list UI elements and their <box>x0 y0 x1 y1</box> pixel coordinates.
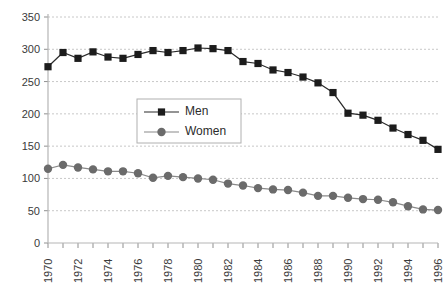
legend-label-men: Men <box>185 104 208 118</box>
data-point-women-1989 <box>329 192 337 200</box>
data-point-women-1993 <box>389 198 397 206</box>
data-point-women-1979 <box>179 173 187 181</box>
data-point-men-1983 <box>239 58 246 65</box>
data-point-women-1983 <box>239 181 247 189</box>
x-tick-label-1986: 1986 <box>282 259 294 283</box>
data-point-men-1976 <box>134 51 141 58</box>
legend-label-women: Women <box>185 124 226 138</box>
data-point-women-1972 <box>74 163 82 171</box>
data-point-men-1977 <box>149 47 156 54</box>
data-point-men-1970 <box>44 63 51 70</box>
data-point-women-1985 <box>269 185 277 193</box>
y-tick-label-350: 350 <box>22 11 40 23</box>
data-point-men-1987 <box>299 73 306 80</box>
x-tick-label-1994: 1994 <box>402 259 414 283</box>
chart-legend: MenWomen <box>137 99 241 143</box>
series-women-group <box>44 161 442 215</box>
legend-marker-men <box>158 108 165 115</box>
series-men-group <box>44 44 441 153</box>
y-tick-label-150: 150 <box>22 140 40 152</box>
x-tick-label-1988: 1988 <box>312 259 324 283</box>
data-point-men-1993 <box>389 124 396 131</box>
data-point-women-1996 <box>434 206 442 214</box>
data-point-men-1995 <box>419 137 426 144</box>
data-point-men-1975 <box>119 55 126 62</box>
data-point-women-1991 <box>359 195 367 203</box>
data-point-women-1992 <box>374 196 382 204</box>
data-point-men-1989 <box>329 89 336 96</box>
x-axis-ticks-group: 1970197219741976197819801982198419861988… <box>42 243 444 283</box>
data-point-women-1977 <box>149 174 157 182</box>
x-tick-label-1996: 1996 <box>432 259 444 283</box>
data-point-women-1984 <box>254 184 262 192</box>
y-tick-label-0: 0 <box>34 237 40 249</box>
x-tick-label-1984: 1984 <box>252 259 264 283</box>
data-point-men-1979 <box>179 47 186 54</box>
data-point-men-1991 <box>359 112 366 119</box>
data-point-women-1990 <box>344 194 352 202</box>
data-point-men-1988 <box>314 79 321 86</box>
data-point-women-1973 <box>89 165 97 173</box>
x-tick-label-1990: 1990 <box>342 259 354 283</box>
data-point-men-1982 <box>224 47 231 54</box>
data-point-women-1994 <box>404 202 412 210</box>
data-point-men-1978 <box>164 49 171 56</box>
x-tick-label-1978: 1978 <box>162 259 174 283</box>
y-tick-label-100: 100 <box>22 172 40 184</box>
data-point-women-1987 <box>299 188 307 196</box>
y-tick-label-300: 300 <box>22 43 40 55</box>
data-point-women-1986 <box>284 186 292 194</box>
data-point-men-1980 <box>194 44 201 51</box>
data-point-men-1971 <box>59 49 66 56</box>
line-chart: 050100150200250300350 197019721974197619… <box>0 0 446 287</box>
data-point-women-1978 <box>164 172 172 180</box>
x-tick-label-1974: 1974 <box>102 259 114 283</box>
data-point-women-1971 <box>59 161 67 169</box>
data-point-women-1981 <box>209 176 217 184</box>
data-point-men-1981 <box>209 45 216 52</box>
data-point-men-1990 <box>344 110 351 117</box>
y-tick-label-250: 250 <box>22 76 40 88</box>
data-point-men-1985 <box>269 66 276 73</box>
data-point-women-1980 <box>194 174 202 182</box>
y-tick-label-200: 200 <box>22 108 40 120</box>
data-point-women-1970 <box>44 165 52 173</box>
data-point-men-1973 <box>89 48 96 55</box>
x-tick-label-1982: 1982 <box>222 259 234 283</box>
data-point-women-1975 <box>119 167 127 175</box>
data-point-men-1994 <box>404 131 411 138</box>
y-axis-ticks-group: 050100150200250300350 <box>22 11 48 249</box>
data-point-women-1988 <box>314 192 322 200</box>
data-point-women-1974 <box>104 167 112 175</box>
data-point-men-1986 <box>284 69 291 76</box>
data-point-men-1972 <box>74 55 81 62</box>
data-point-men-1974 <box>104 53 111 60</box>
x-tick-label-1970: 1970 <box>42 259 54 283</box>
data-point-men-1984 <box>254 60 261 67</box>
x-tick-label-1992: 1992 <box>372 259 384 283</box>
data-point-men-1996 <box>434 146 441 153</box>
legend-marker-women <box>157 128 165 136</box>
data-point-women-1995 <box>419 205 427 213</box>
data-point-men-1992 <box>374 117 381 124</box>
x-tick-label-1980: 1980 <box>192 259 204 283</box>
y-tick-label-50: 50 <box>28 205 40 217</box>
data-point-women-1976 <box>134 169 142 177</box>
x-tick-label-1976: 1976 <box>132 259 144 283</box>
data-point-women-1982 <box>224 179 232 187</box>
x-tick-label-1972: 1972 <box>72 259 84 283</box>
chart-container: 050100150200250300350 197019721974197619… <box>0 0 446 287</box>
